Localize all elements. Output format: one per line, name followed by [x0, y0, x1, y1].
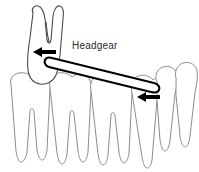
lower-tooth-3	[90, 75, 132, 165]
right-teeth-group	[156, 62, 198, 151]
diagram-canvas: Headgear orthodontic appliance diagram	[0, 0, 199, 172]
right-tooth-2	[175, 62, 197, 147]
headgear-label: Headgear	[72, 40, 118, 51]
headgear-diagram: Headgear orthodontic appliance diagram	[0, 0, 199, 172]
right-tooth-1	[156, 66, 178, 151]
lower-tooth-1	[10, 73, 50, 162]
upper-molar	[28, 6, 64, 84]
upper-molar-outline	[28, 6, 64, 84]
lower-tooth-2	[49, 73, 91, 164]
